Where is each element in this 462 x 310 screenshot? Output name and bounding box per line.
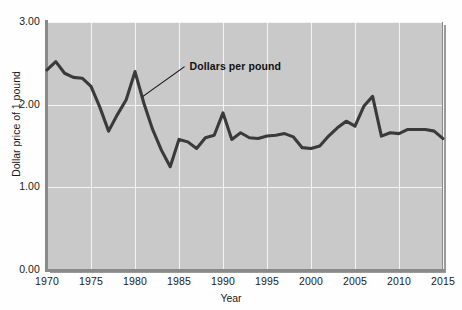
gridline-horizontal (47, 105, 442, 106)
x-tick-label: 1990 (203, 275, 243, 287)
gridline-vertical (311, 22, 312, 270)
x-tick-label: 2010 (379, 275, 419, 287)
gridline-vertical (443, 22, 444, 270)
gridline-horizontal (47, 22, 442, 23)
gridline-vertical (135, 22, 136, 270)
x-tick-label: 2015 (423, 275, 462, 287)
gridline-vertical (91, 22, 92, 270)
x-axis-line (45, 269, 445, 272)
x-tick-label: 1995 (247, 275, 287, 287)
annotation-label: Dollars per pound (190, 60, 282, 72)
x-tick-label: 1985 (159, 275, 199, 287)
x-tick-label: 2000 (291, 275, 331, 287)
y-tick-label: 0.00 (2, 263, 40, 275)
gridline-vertical (399, 22, 400, 270)
y-axis-title: Dollar price of 1 pound (10, 54, 22, 194)
gridline-vertical (179, 22, 180, 270)
y-axis-line (45, 20, 48, 272)
gridline-horizontal (47, 187, 442, 188)
chart-figure: 0.001.002.003.00 19701975198019851990199… (0, 0, 462, 310)
x-tick-label: 1975 (71, 275, 111, 287)
x-axis-title: Year (0, 292, 462, 304)
x-tick-label: 1980 (115, 275, 155, 287)
gridline-vertical (355, 22, 356, 270)
x-tick-label: 1970 (27, 275, 67, 287)
x-tick-label: 2005 (335, 275, 375, 287)
y-tick-label: 3.00 (2, 15, 40, 27)
